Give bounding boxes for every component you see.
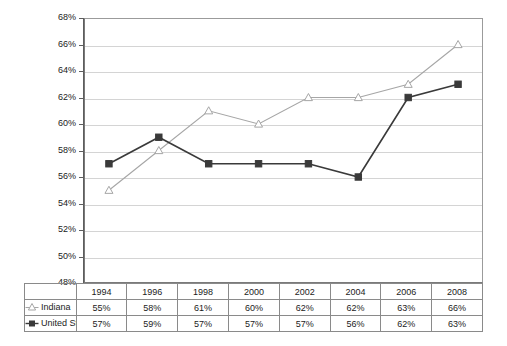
table-data-cell: 62% — [330, 300, 381, 316]
table-data-cell: 57% — [279, 316, 330, 332]
y-axis-tick-label: 60% — [8, 119, 76, 128]
data-table-legend: 19941996199820002002200420062008Indiana5… — [24, 283, 483, 331]
table-row: Indiana55%58%61%60%62%62%63%66% — [25, 300, 483, 316]
gridline — [85, 99, 482, 100]
table-corner-cell — [25, 284, 77, 300]
table-row: United States57%59%57%57%57%56%62%63% — [25, 316, 483, 332]
table-header-cell: 1994 — [76, 284, 127, 300]
table-header-row: 19941996199820002002200420062008 — [25, 284, 483, 300]
table-data-cell: 60% — [229, 300, 280, 316]
gridline — [85, 231, 482, 232]
y-axis-tick-label: 66% — [8, 40, 76, 49]
table-data-cell: 57% — [178, 316, 229, 332]
table-data-cell: 63% — [381, 300, 432, 316]
table-data-cell: 62% — [381, 316, 432, 332]
gridline — [85, 72, 482, 73]
legend-item-united-states[interactable]: United States — [25, 316, 77, 332]
table-data-cell: 63% — [432, 316, 483, 332]
y-axis-tick-label: 50% — [8, 252, 76, 261]
gridline — [85, 46, 482, 47]
table-header-cell: 1998 — [178, 284, 229, 300]
gridline — [85, 125, 482, 126]
table-header-cell: 2008 — [432, 284, 483, 300]
y-axis-tick-label: 64% — [8, 66, 76, 75]
table-header-cell: 2006 — [381, 284, 432, 300]
table-data-cell: 57% — [229, 316, 280, 332]
y-axis-tick-label: 62% — [8, 93, 76, 102]
gridlines — [85, 19, 482, 282]
table-data-cell: 59% — [127, 316, 178, 332]
legend-label: Indiana — [41, 300, 71, 315]
data-table: 19941996199820002002200420062008Indiana5… — [24, 283, 483, 332]
legend-label: United States — [41, 316, 76, 331]
table-header-cell: 1996 — [127, 284, 178, 300]
y-axis-tick-label: 54% — [8, 199, 76, 208]
table-header-cell: 2002 — [279, 284, 330, 300]
legend-square-icon — [25, 318, 39, 329]
y-axis-tick-label: 52% — [8, 225, 76, 234]
y-axis-tick-label: 68% — [8, 13, 76, 22]
gridline — [85, 152, 482, 153]
gridline — [85, 178, 482, 179]
table-data-cell: 56% — [330, 316, 381, 332]
gridline — [85, 258, 482, 259]
table-data-cell: 66% — [432, 300, 483, 316]
table-data-cell: 58% — [127, 300, 178, 316]
chart-container: 68%66%64%62%60%58%56%54%52%50%48% 199419… — [0, 0, 507, 346]
table-data-cell: 57% — [76, 316, 127, 332]
table-header-cell: 2004 — [330, 284, 381, 300]
gridline — [85, 205, 482, 206]
table-data-cell: 55% — [76, 300, 127, 316]
y-axis-tick-label: 56% — [8, 172, 76, 181]
table-header-cell: 2000 — [229, 284, 280, 300]
legend-item-indiana[interactable]: Indiana — [25, 300, 77, 316]
table-data-cell: 61% — [178, 300, 229, 316]
plot-area — [84, 18, 483, 283]
legend-triangle-icon — [25, 302, 39, 313]
y-axis-tick-label: 58% — [8, 146, 76, 155]
table-data-cell: 62% — [279, 300, 330, 316]
